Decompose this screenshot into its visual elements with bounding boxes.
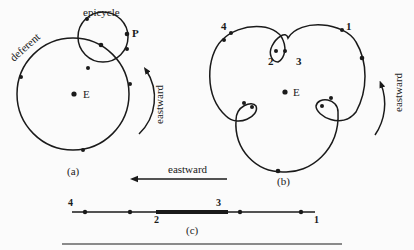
caption-b: (b) — [277, 175, 290, 188]
caption-a: (a) — [67, 165, 80, 178]
label-point-3-c: 3 — [216, 197, 221, 208]
eastward-arc-b — [375, 84, 385, 135]
retrograde-loop-path — [210, 25, 365, 172]
label-eastward-c: eastward — [168, 163, 208, 175]
label-point-4-b: 4 — [221, 20, 227, 32]
label-planet-p: P — [132, 27, 139, 39]
label-deferent: deferent — [7, 30, 42, 63]
label-earth-b: E — [293, 86, 300, 98]
figure-c — [62, 179, 342, 244]
label-point-4-c: 4 — [68, 197, 73, 208]
epicycle-diagram: epicycle deferent P E eastward (a) 4 1 2… — [0, 0, 414, 250]
figure-b — [210, 25, 385, 173]
label-point-1-c: 1 — [314, 214, 319, 225]
diagram-canvas: epicycle deferent P E eastward (a) 4 1 2… — [0, 0, 414, 250]
label-earth-a: E — [83, 88, 90, 100]
label-eastward-a: eastward — [153, 84, 165, 124]
label-point-2-c: 2 — [154, 214, 159, 225]
earth-dot-b — [282, 89, 287, 94]
label-point-2-b: 2 — [268, 55, 274, 67]
caption-c: (c) — [186, 224, 199, 237]
earth-dot-a — [71, 91, 76, 96]
label-point-3-b: 3 — [296, 55, 302, 67]
label-epicycle: epicycle — [83, 6, 120, 18]
label-point-1-b: 1 — [346, 20, 352, 32]
label-eastward-b: eastward — [392, 72, 404, 112]
